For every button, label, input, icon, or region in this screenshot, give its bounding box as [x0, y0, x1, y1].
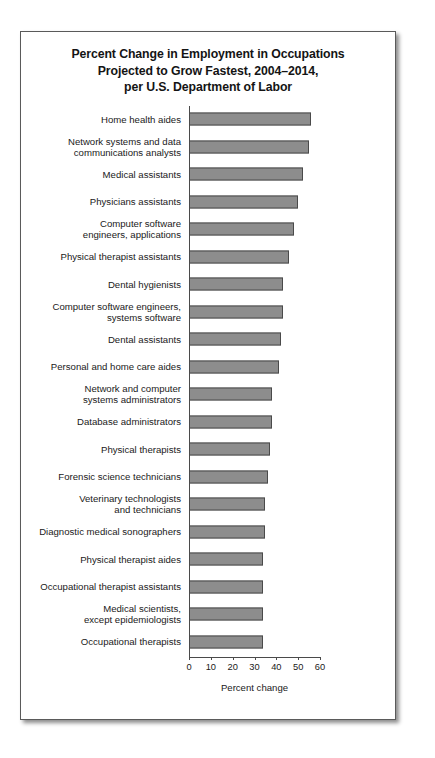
- category-label-line: Physical therapist aides: [21, 554, 181, 565]
- bar: [189, 553, 263, 566]
- x-tick-label: 0: [186, 662, 191, 672]
- category-label-line: Personal and home care aides: [21, 361, 181, 372]
- category-label-line: Database administrators: [21, 416, 181, 427]
- chart-title-line-1: Percent Change in Employment in Occupati…: [21, 46, 395, 63]
- x-tick-label: 20: [227, 662, 237, 672]
- category-label-line: Network and computer: [21, 383, 181, 394]
- bar: [189, 195, 298, 208]
- bar-row: Occupational therapists: [21, 628, 395, 656]
- category-label: Diagnostic medical sonographers: [21, 526, 185, 537]
- bar: [189, 333, 281, 346]
- bar-row: Physical therapist aides: [21, 546, 395, 574]
- bar-track: [189, 525, 265, 538]
- bar-track: [189, 580, 263, 593]
- bar: [189, 525, 265, 538]
- x-tick-label: 60: [315, 662, 325, 672]
- bar-track: [189, 223, 294, 236]
- category-label-line: engineers, applications: [21, 229, 181, 240]
- bar-row: Network systems and datacommunications a…: [21, 133, 395, 161]
- bar-row: Home health aides: [21, 106, 395, 134]
- category-label-line: Network systems and data: [21, 136, 181, 147]
- x-axis-title: Percent change: [189, 682, 320, 693]
- bar-track: [189, 360, 279, 373]
- bar-row: Database administrators: [21, 408, 395, 436]
- bar: [189, 360, 279, 373]
- bar-track: [189, 443, 270, 456]
- bar-track: [189, 250, 289, 263]
- bar-track: [189, 553, 263, 566]
- bar: [189, 278, 283, 291]
- chart-title-line-3: per U.S. Department of Labor: [21, 79, 395, 96]
- bar-row: Occupational therapist assistants: [21, 573, 395, 601]
- category-label-line: Computer software: [21, 218, 181, 229]
- category-label: Dental assistants: [21, 334, 185, 345]
- x-tick-label: 10: [206, 662, 216, 672]
- bar-row: Veterinary technologistsand technicians: [21, 491, 395, 519]
- category-label-line: except epidemiologists: [21, 614, 181, 625]
- category-label-line: Physicians assistants: [21, 196, 181, 207]
- category-label-line: Dental assistants: [21, 334, 181, 345]
- bar-track: [189, 278, 283, 291]
- bar: [189, 470, 268, 483]
- category-label: Computer software engineers,systems soft…: [21, 301, 185, 323]
- bar-row: Medical scientists,except epidemiologist…: [21, 601, 395, 629]
- category-label: Physical therapist assistants: [21, 251, 185, 262]
- bar-track: [189, 388, 272, 401]
- bar-track: [189, 168, 303, 181]
- bar: [189, 608, 263, 621]
- category-label: Veterinary technologistsand technicians: [21, 493, 185, 515]
- bar: [189, 388, 272, 401]
- bar-row: Medical assistants: [21, 161, 395, 189]
- bar: [189, 113, 311, 126]
- category-label: Database administrators: [21, 416, 185, 427]
- bar-track: [189, 195, 298, 208]
- figure-frame: Percent Change in Employment in Occupati…: [20, 31, 396, 720]
- chart-title-line-2: Projected to Grow Fastest, 2004–2014,: [21, 63, 395, 80]
- bar: [189, 415, 272, 428]
- x-tick-label: 50: [293, 662, 303, 672]
- category-label-line: Dental hygienists: [21, 279, 181, 290]
- bar-row: Physical therapist assistants: [21, 243, 395, 271]
- bar-track: [189, 305, 283, 318]
- bar: [189, 223, 294, 236]
- bar: [189, 498, 265, 511]
- bar: [189, 168, 303, 181]
- bar-row: Dental assistants: [21, 326, 395, 354]
- category-label-line: Physical therapists: [21, 444, 181, 455]
- x-tick-label: 40: [271, 662, 281, 672]
- bar-row: Forensic science technicians: [21, 463, 395, 491]
- bar-track: [189, 498, 265, 511]
- x-tick-mark: [276, 657, 277, 660]
- category-label: Physicians assistants: [21, 196, 185, 207]
- bar: [189, 140, 309, 153]
- category-label: Occupational therapists: [21, 636, 185, 647]
- category-label-line: systems software: [21, 312, 181, 323]
- bar-row: Diagnostic medical sonographers: [21, 518, 395, 546]
- bar-row: Physicians assistants: [21, 188, 395, 216]
- bar-track: [189, 608, 263, 621]
- bar-track: [189, 470, 268, 483]
- category-label: Physical therapist aides: [21, 554, 185, 565]
- x-tick-mark: [211, 657, 212, 660]
- bar-row: Network and computersystems administrato…: [21, 381, 395, 409]
- category-label: Computer softwareengineers, applications: [21, 218, 185, 240]
- category-label-line: Occupational therapist assistants: [21, 581, 181, 592]
- x-tick-mark: [233, 657, 234, 660]
- category-label-line: Medical assistants: [21, 169, 181, 180]
- category-label-line: Veterinary technologists: [21, 493, 181, 504]
- category-label-line: and technicians: [21, 504, 181, 515]
- x-tick-label: 30: [249, 662, 259, 672]
- bar: [189, 580, 263, 593]
- category-label: Physical therapists: [21, 444, 185, 455]
- category-label: Network systems and datacommunications a…: [21, 136, 185, 158]
- x-tick-mark: [189, 657, 190, 660]
- category-label: Medical assistants: [21, 169, 185, 180]
- category-label-line: Occupational therapists: [21, 636, 181, 647]
- bar-row: Dental hygienists: [21, 271, 395, 299]
- category-label: Dental hygienists: [21, 279, 185, 290]
- category-label: Occupational therapist assistants: [21, 581, 185, 592]
- bar-track: [189, 113, 311, 126]
- bar-row: Computer software engineers,systems soft…: [21, 298, 395, 326]
- bar-track: [189, 140, 309, 153]
- category-label-line: Forensic science technicians: [21, 471, 181, 482]
